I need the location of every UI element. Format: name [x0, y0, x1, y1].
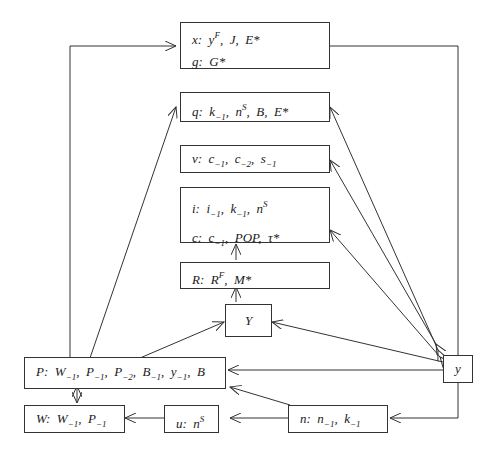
label-c: c: [192, 230, 202, 245]
term: B [256, 104, 264, 119]
subscript: −1 [214, 159, 225, 169]
label-q: q: [192, 104, 203, 119]
sep: , [187, 364, 190, 379]
label-P: P: [36, 364, 48, 379]
node-Y[interactable]: Y [225, 304, 272, 337]
term: POP [235, 230, 259, 245]
subscript: −2 [241, 159, 252, 169]
node-v[interactable]: v: c−1, c−2, s−1 [180, 145, 330, 173]
subscript: −1 [236, 209, 247, 219]
term: P [88, 411, 96, 426]
row-g: g: G* [192, 51, 329, 73]
term: B [197, 364, 205, 379]
subscript: −1 [68, 419, 79, 429]
subscript: −1 [215, 112, 226, 122]
label-n: n: [300, 411, 311, 426]
edge-y-ic [330, 230, 440, 357]
node-u[interactable]: u: nS [164, 405, 219, 433]
term: τ* [268, 230, 279, 245]
node-P[interactable]: P: W−1, P−1, P−2, B−1, y−1, B [24, 357, 226, 389]
sep: , [133, 364, 136, 379]
term: R [211, 272, 219, 287]
sep: , [251, 151, 254, 166]
sep: , [76, 364, 79, 379]
node-x-g[interactable]: x: yF, J, E* g: G* [180, 22, 330, 69]
sep: , [334, 411, 337, 426]
node-i-c[interactable]: i: i−1, k−1, nS c: c−1, POP, τ* [180, 187, 330, 243]
sep: , [224, 272, 227, 287]
label-i: i: [192, 201, 200, 216]
edge-y-v [330, 160, 436, 344]
subscript: −1 [177, 372, 188, 382]
sep: , [104, 364, 107, 379]
node-y[interactable]: y [443, 355, 473, 383]
row-R: R: RF, M* [192, 263, 329, 292]
sep: , [220, 32, 223, 47]
sep: , [161, 364, 164, 379]
edge-y-to-Y [272, 322, 443, 362]
term: G* [209, 54, 225, 69]
subscript: −1 [266, 159, 277, 169]
sep: , [235, 32, 238, 47]
edge-P-to-q [90, 107, 176, 358]
term: P [86, 364, 94, 379]
row-x: x: yF, J, E* [192, 24, 329, 51]
edge-P-to-xg [70, 46, 176, 358]
sep: , [264, 104, 267, 119]
label-g: g: [192, 54, 203, 69]
label-u: u: [176, 416, 187, 431]
row-n: n: n−1, k−1 [300, 406, 387, 437]
subscript: −2 [122, 372, 133, 382]
label-y: y [455, 361, 461, 376]
sep: , [225, 151, 228, 166]
subscript: −1 [324, 419, 335, 429]
label-R: R: [192, 272, 204, 287]
term: W [55, 364, 66, 379]
row-v: v: c−1, c−2, s−1 [192, 146, 329, 177]
sep: , [258, 230, 261, 245]
row-i: i: i−1, k−1, nS [192, 192, 329, 226]
edge-y-to-n [390, 382, 458, 418]
term: M* [234, 272, 251, 287]
edge-P-to-Y [140, 322, 224, 358]
node-R[interactable]: R: RF, M* [180, 262, 330, 289]
sep: , [246, 104, 249, 119]
subscript: −1 [96, 419, 107, 429]
term: E* [274, 104, 288, 119]
subscript: −1 [150, 372, 161, 382]
term: P [114, 364, 122, 379]
subscript: −1 [94, 372, 105, 382]
superscript: S [200, 414, 205, 424]
edge-y-q [330, 107, 438, 350]
label-W: W: [36, 411, 50, 426]
subscript: −1 [214, 238, 225, 248]
subscript: −1 [210, 209, 221, 219]
label-x: x: [192, 32, 202, 47]
row-u: u: nS [176, 406, 218, 437]
row-W: W: W−1, P−1 [36, 406, 124, 437]
label-v: v: [192, 151, 202, 166]
sep: , [221, 201, 224, 216]
term: W [57, 411, 68, 426]
edge-xg-to-y [330, 46, 458, 355]
sep: , [247, 201, 250, 216]
row-q: q: k−1, nS, B, E* [192, 93, 329, 131]
term: E* [245, 32, 259, 47]
subscript: −1 [66, 372, 77, 382]
label-Y: Y [245, 313, 252, 328]
row-P: P: W−1, P−1, P−2, B−1, y−1, B [36, 358, 225, 391]
sep: , [78, 411, 81, 426]
superscript: S [263, 199, 268, 209]
sep: , [226, 104, 229, 119]
edge-n-to-P [230, 387, 290, 405]
node-n[interactable]: n: n−1, k−1 [288, 405, 388, 433]
node-W[interactable]: W: W−1, P−1 [24, 405, 125, 433]
row-c: c: c−1, POP, τ* [192, 226, 329, 255]
subscript: −1 [350, 419, 361, 429]
node-q[interactable]: q: k−1, nS, B, E* [180, 92, 330, 122]
sep: , [225, 230, 228, 245]
